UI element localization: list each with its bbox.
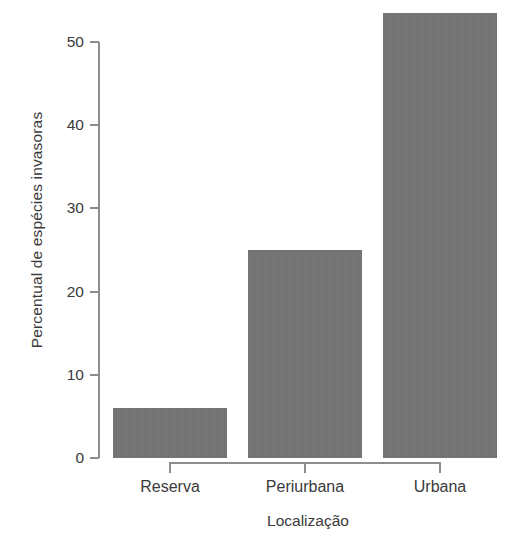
x-axis-title: Localização	[98, 512, 518, 530]
bar-chart-figure: Percentual de espécies invasoras 0 10 20…	[0, 0, 518, 553]
bar-reserva[interactable]	[113, 408, 227, 458]
y-tick-label: 10	[42, 366, 84, 384]
bar-periurbana[interactable]	[248, 250, 362, 458]
x-tick-mark	[439, 462, 441, 473]
y-tick-label: 40	[42, 116, 84, 134]
bar-urbana[interactable]	[383, 13, 497, 458]
plot-area: Reserva Periurbana Urbana	[98, 0, 518, 553]
y-axis-line	[98, 42, 100, 458]
y-tick-mark	[90, 291, 99, 293]
x-tick-mark	[304, 462, 306, 473]
y-axis-tick-labels: 0 10 20 30 40 50	[42, 0, 84, 553]
y-tick-label: 20	[42, 283, 84, 301]
x-tick-label-reserva: Reserva	[140, 478, 200, 496]
y-tick-mark	[90, 374, 99, 376]
y-tick-mark	[90, 41, 99, 43]
y-tick-label: 30	[42, 199, 84, 217]
y-tick-mark	[90, 457, 99, 459]
y-tick-label: 0	[42, 449, 84, 467]
x-tick-label-periurbana: Periurbana	[266, 478, 344, 496]
x-tick-label-urbana: Urbana	[414, 478, 466, 496]
y-tick-mark	[90, 207, 99, 209]
y-tick-label: 50	[42, 33, 84, 51]
y-tick-mark	[90, 124, 99, 126]
x-tick-mark	[169, 462, 171, 473]
